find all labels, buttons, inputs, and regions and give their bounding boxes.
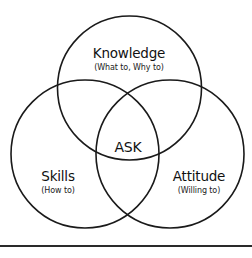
- knowledge-label: Knowledge (What to, Why to): [93, 47, 165, 72]
- knowledge-subtitle: (What to, Why to): [93, 64, 165, 72]
- skills-title: Skills: [41, 170, 74, 184]
- attitude-label: Attitude (Willing to): [173, 170, 225, 195]
- attitude-subtitle: (Willing to): [173, 187, 225, 195]
- skills-subtitle: (How to): [41, 187, 74, 195]
- knowledge-title: Knowledge: [93, 47, 165, 61]
- skills-label: Skills (How to): [41, 170, 74, 195]
- ask-venn-diagram: Knowledge (What to, Why to) Skills (How …: [0, 0, 252, 258]
- ask-center-label: ASK: [114, 140, 141, 154]
- venn-circles: [0, 0, 252, 258]
- ask-title: ASK: [114, 140, 141, 154]
- bottom-divider: [0, 245, 252, 247]
- attitude-title: Attitude: [173, 170, 225, 184]
